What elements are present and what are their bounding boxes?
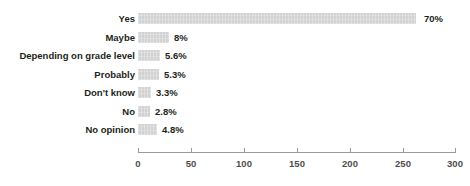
bar: [138, 50, 160, 61]
x-axis-line: [138, 152, 456, 153]
x-axis-tick: [191, 148, 192, 152]
bar: [138, 32, 169, 43]
x-axis-tick-label: 300: [435, 158, 470, 170]
x-axis-tick: [297, 148, 298, 152]
value-label: 5.6%: [165, 49, 187, 62]
x-axis-tick-label: 50: [171, 158, 211, 170]
x-axis-tick: [244, 148, 245, 152]
bar: [138, 106, 150, 117]
category-label: No: [0, 105, 135, 118]
category-label: Maybe: [0, 31, 135, 44]
value-label: 70%: [424, 12, 443, 25]
x-axis-tick-label: 200: [330, 158, 370, 170]
category-label: Depending on grade level: [0, 49, 135, 62]
value-label: 3.3%: [156, 86, 178, 99]
value-label: 2.8%: [155, 105, 177, 118]
x-axis-tick: [455, 148, 456, 152]
x-axis-tick: [403, 148, 404, 152]
x-axis-tick-label: 150: [277, 158, 317, 170]
bar: [138, 124, 157, 135]
category-label: No opinion: [0, 123, 135, 136]
x-axis-tick-label: 0: [118, 158, 158, 170]
value-label: 5.3%: [164, 68, 186, 81]
x-axis-tick: [138, 148, 139, 152]
horizontal-bar-chart: Yes 70% Maybe 8% Depending on grade leve…: [0, 0, 470, 186]
x-axis-tick-label: 100: [224, 158, 264, 170]
value-label: 4.8%: [162, 123, 184, 136]
category-label: Probably: [0, 68, 135, 81]
value-label: 8%: [174, 31, 188, 44]
category-label: Don't know: [0, 86, 135, 99]
bar: [138, 87, 151, 98]
bar: [138, 13, 416, 24]
x-axis-tick-label: 250: [383, 158, 423, 170]
x-axis-tick: [350, 148, 351, 152]
category-label: Yes: [0, 12, 135, 25]
bar: [138, 69, 159, 80]
